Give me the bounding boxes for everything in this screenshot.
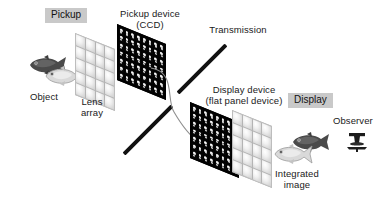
- grid-cell: [204, 155, 209, 163]
- grid-cell: [119, 72, 124, 80]
- grid-cell: [215, 160, 220, 168]
- grid-cell: [154, 86, 159, 94]
- transmission-bar-lower: [123, 105, 174, 156]
- observer-icon: [345, 131, 371, 155]
- pickup-device-ccd: [117, 24, 166, 100]
- grid-cell: [233, 160, 242, 175]
- integrated-image-label: Integrated image: [264, 168, 330, 190]
- display-device-label: Display device (flat panel device): [186, 84, 302, 106]
- display-stage-tag: Display: [288, 93, 333, 108]
- grid-cell: [192, 150, 197, 158]
- grid-cell: [136, 79, 141, 87]
- grid-cell: [142, 82, 147, 90]
- grid-cell: [159, 89, 164, 97]
- grid-cell: [227, 164, 232, 172]
- grid-cell: [253, 168, 262, 183]
- integral-imaging-diagram: Pickup Pickup device (CCD) Object Lens a…: [0, 0, 391, 203]
- lens-array-left-label: Lens array: [66, 96, 118, 118]
- integrated-image-fish-light: [270, 142, 314, 166]
- grid-cell: [148, 84, 153, 92]
- observer-label: Observer: [333, 115, 373, 126]
- pickup-stage-tag: Pickup: [45, 8, 87, 23]
- grid-cell: [131, 77, 136, 85]
- grid-cell: [198, 153, 203, 161]
- grid-cell: [125, 75, 130, 83]
- grid-cell: [243, 164, 252, 179]
- grid-cell: [221, 162, 226, 170]
- grid-cell: [209, 157, 214, 165]
- transmission-label: Transmission: [190, 24, 286, 35]
